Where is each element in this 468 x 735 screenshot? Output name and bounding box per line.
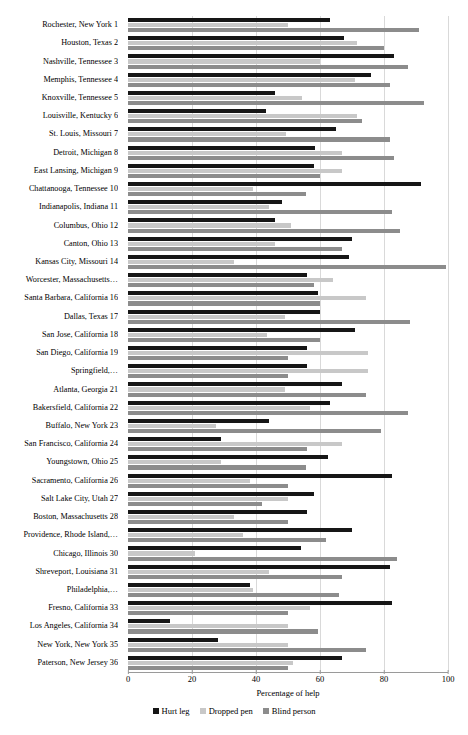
bar-blind-person <box>128 666 288 670</box>
category-label: Providence, Rhode Island,… <box>0 530 118 539</box>
legend-item-dropped-pen[interactable]: Dropped pen <box>200 706 253 716</box>
category-label: Chattanooga, Tennessee 10 <box>0 184 118 193</box>
bar-dropped-pen <box>128 624 288 628</box>
category-label: Philadelphia,… <box>0 585 118 594</box>
category-label: Paterson, New Jersey 36 <box>0 658 118 667</box>
bar-blind-person <box>128 484 288 488</box>
bar-blind-person <box>128 83 390 87</box>
bar-hurt-leg <box>128 474 392 478</box>
x-axis-ticks: 020406080100 <box>128 674 448 688</box>
bar-hurt-leg <box>128 583 250 587</box>
legend-item-blind-person[interactable]: Blind person <box>263 706 316 716</box>
bar-group <box>128 382 448 396</box>
bar-dropped-pen <box>128 296 366 300</box>
bar-group <box>128 401 448 415</box>
bar-hurt-leg <box>128 328 355 332</box>
category-label: Boston, Massachusetts 28 <box>0 512 118 521</box>
bar-group <box>128 127 448 141</box>
bar-group <box>128 565 448 579</box>
category-label: Fresno, California 33 <box>0 603 118 612</box>
bar-dropped-pen <box>128 59 320 63</box>
bar-blind-person <box>128 301 320 305</box>
bar-group <box>128 237 448 251</box>
bar-blind-person <box>128 65 408 69</box>
category-label: Salt Lake City, Utah 27 <box>0 494 118 503</box>
bar-blind-person <box>128 465 306 469</box>
bar-dropped-pen <box>128 96 302 100</box>
bar-hurt-leg <box>128 546 301 550</box>
category-label: St. Louis, Missouri 7 <box>0 129 118 138</box>
legend-label: Dropped pen <box>209 706 253 716</box>
legend-swatch-icon <box>263 708 269 714</box>
bar-blind-person <box>128 393 366 397</box>
bar-blind-person <box>128 520 288 524</box>
bar-blind-person <box>128 119 362 123</box>
bar-hurt-leg <box>128 310 320 314</box>
category-label: Shreveport, Louisiana 31 <box>0 567 118 576</box>
bar-dropped-pen <box>128 661 293 665</box>
bar-group <box>128 255 448 269</box>
bar-hurt-leg <box>128 73 371 77</box>
category-label: San Jose, California 18 <box>0 330 118 339</box>
bar-hurt-leg <box>128 255 349 259</box>
bar-dropped-pen <box>128 242 275 246</box>
chart-legend: Hurt legDropped penBlind person <box>0 706 468 716</box>
bar-blind-person <box>128 538 326 542</box>
x-tick-20: 20 <box>188 674 197 684</box>
category-label: Columbus, Ohio 12 <box>0 221 118 230</box>
category-label: Santa Barbara, California 16 <box>0 293 118 302</box>
bar-hurt-leg <box>128 200 282 204</box>
gridline-100 <box>448 16 449 672</box>
bar-blind-person <box>128 28 419 32</box>
category-label: Atlanta, Georgia 21 <box>0 385 118 394</box>
category-label: Bakersfield, California 22 <box>0 403 118 412</box>
bar-group <box>128 310 448 324</box>
bar-dropped-pen <box>128 114 357 118</box>
x-tick-mark <box>192 670 193 674</box>
bar-hurt-leg <box>128 127 336 131</box>
bar-dropped-pen <box>128 442 342 446</box>
bar-hurt-leg <box>128 164 314 168</box>
category-label: Louisville, Kentucky 6 <box>0 111 118 120</box>
bar-group <box>128 346 448 360</box>
category-label: New York, New York 35 <box>0 640 118 649</box>
bar-group <box>128 73 448 87</box>
bar-dropped-pen <box>128 41 357 45</box>
category-label: San Diego, California 19 <box>0 348 118 357</box>
category-label: Los Angeles, California 34 <box>0 621 118 630</box>
x-axis-title: Percentage of help <box>128 688 448 698</box>
x-tick-mark <box>448 670 449 674</box>
bar-group <box>128 656 448 670</box>
bar-dropped-pen <box>128 515 234 519</box>
bar-dropped-pen <box>128 570 269 574</box>
bar-dropped-pen <box>128 132 286 136</box>
bar-hurt-leg <box>128 656 342 660</box>
bar-group <box>128 182 448 196</box>
bar-group <box>128 18 448 32</box>
bar-group <box>128 601 448 615</box>
bar-dropped-pen <box>128 460 221 464</box>
x-tick-mark <box>256 670 257 674</box>
bar-group <box>128 437 448 451</box>
bar-blind-person <box>128 557 397 561</box>
bar-hurt-leg <box>128 565 390 569</box>
bar-group <box>128 364 448 378</box>
bar-hurt-leg <box>128 273 307 277</box>
bar-blind-person <box>128 247 342 251</box>
bar-blind-person <box>128 210 392 214</box>
bar-dropped-pen <box>128 606 310 610</box>
bar-dropped-pen <box>128 551 195 555</box>
bar-blind-person <box>128 447 307 451</box>
bar-dropped-pen <box>128 588 253 592</box>
bar-dropped-pen <box>128 533 243 537</box>
bar-blind-person <box>128 502 262 506</box>
category-label: Indianapolis, Indiana 11 <box>0 202 118 211</box>
bar-blind-person <box>128 429 381 433</box>
bar-dropped-pen <box>128 387 285 391</box>
legend-item-hurt-leg[interactable]: Hurt leg <box>153 706 190 716</box>
category-label: Youngstown, Ohio 25 <box>0 457 118 466</box>
bar-blind-person <box>128 174 320 178</box>
bar-blind-person <box>128 648 366 652</box>
bar-hurt-leg <box>128 182 421 186</box>
bar-dropped-pen <box>128 479 250 483</box>
